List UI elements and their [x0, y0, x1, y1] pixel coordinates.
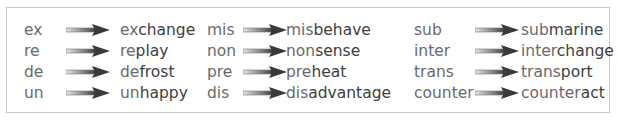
right-arrow-icon [243, 45, 287, 57]
word-prefix: inter [521, 42, 557, 60]
derived-word: exchange [120, 19, 195, 41]
derived-word: submarine [521, 19, 603, 41]
derived-word: misbehave [286, 19, 371, 41]
prefix-row: non nonsense [207, 40, 407, 62]
word-prefix: trans [521, 63, 561, 81]
prefix-row: un unhappy [24, 82, 204, 104]
right-arrow-icon [66, 45, 110, 57]
prefix-label: trans [414, 61, 454, 83]
derived-word: preheat [286, 61, 346, 83]
derived-word: disadvantage [286, 82, 391, 104]
word-prefix: non [286, 42, 315, 60]
derived-word: counteract [521, 82, 605, 104]
right-arrow-icon [66, 24, 110, 36]
word-prefix: counter [521, 84, 581, 102]
prefix-row: pre preheat [207, 61, 407, 83]
word-stem: sense [315, 42, 360, 60]
derived-word: nonsense [286, 40, 360, 62]
derived-word: replay [120, 40, 168, 62]
right-arrow-icon [66, 87, 110, 99]
prefix-label: inter [414, 40, 450, 62]
word-prefix: pre [286, 63, 311, 81]
right-arrow-icon [475, 66, 519, 78]
prefix-row: ex exchange [24, 19, 204, 41]
word-stem: heat [311, 63, 346, 81]
word-prefix: sub [521, 21, 549, 39]
derived-word: interchange [521, 40, 614, 62]
prefix-row: mis misbehave [207, 19, 407, 41]
word-stem: change [557, 42, 614, 60]
prefix-row: de defrost [24, 61, 204, 83]
word-prefix: mis [286, 21, 313, 39]
prefix-label: ex [24, 19, 42, 41]
prefix-label: un [24, 82, 44, 104]
word-prefix: de [120, 63, 139, 81]
word-prefix: ex [120, 21, 138, 39]
word-prefix: un [120, 84, 140, 102]
right-arrow-icon [475, 87, 519, 99]
right-arrow-icon [243, 66, 287, 78]
prefix-row: sub submarine [414, 19, 604, 41]
prefix-label: re [24, 40, 40, 62]
derived-word: unhappy [120, 82, 188, 104]
word-prefix: dis [286, 84, 308, 102]
right-arrow-icon [475, 24, 519, 36]
derived-word: transport [521, 61, 593, 83]
prefix-label: dis [207, 82, 229, 104]
prefix-row: counter counteract [414, 82, 604, 104]
prefix-row: trans transport [414, 61, 604, 83]
word-stem: frost [139, 63, 174, 81]
prefix-row: inter interchange [414, 40, 604, 62]
word-stem: change [138, 21, 195, 39]
prefix-label: sub [414, 19, 442, 41]
prefix-label: mis [207, 19, 234, 41]
word-prefix: re [120, 42, 136, 60]
right-arrow-icon [475, 45, 519, 57]
word-stem: advantage [308, 84, 391, 102]
prefix-row: dis disadvantage [207, 82, 407, 104]
word-stem: act [581, 84, 605, 102]
derived-word: defrost [120, 61, 175, 83]
word-stem: happy [140, 84, 188, 102]
word-stem: behave [313, 21, 370, 39]
right-arrow-icon [243, 87, 287, 99]
prefix-label: counter [414, 82, 474, 104]
prefix-row: re replay [24, 40, 204, 62]
word-stem: port [561, 63, 593, 81]
prefix-label: non [207, 40, 236, 62]
word-stem: play [136, 42, 169, 60]
right-arrow-icon [243, 24, 287, 36]
word-stem: marine [549, 21, 604, 39]
prefix-diagram-frame: ex exchange re replay de defrost un unha… [6, 7, 610, 113]
prefix-label: de [24, 61, 43, 83]
right-arrow-icon [66, 66, 110, 78]
prefix-label: pre [207, 61, 232, 83]
